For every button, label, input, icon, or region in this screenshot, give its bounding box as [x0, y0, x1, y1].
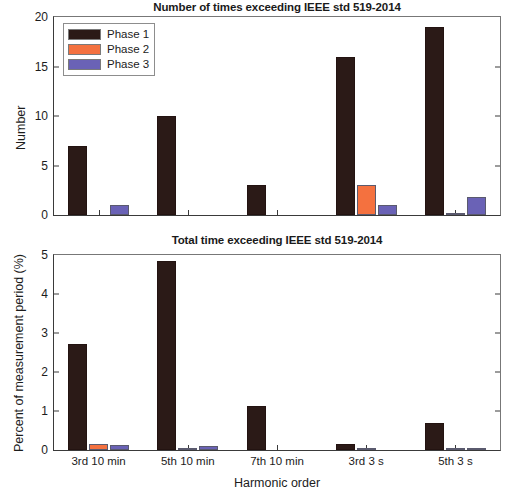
- x-axis-label: Harmonic order: [53, 476, 501, 490]
- legend-swatch-phase-3: [68, 59, 101, 70]
- bar-phase-3: [467, 197, 486, 215]
- plot-area-top: 05101520 Phase 1 Phase 2 Phase 3: [53, 16, 501, 216]
- bar-phase-2: [357, 448, 376, 450]
- y-tick-label: 20: [35, 11, 48, 23]
- bar-phase-1: [336, 57, 355, 215]
- bar-phase-2: [357, 185, 376, 215]
- bar-phase-3: [199, 446, 218, 450]
- bar-phase-3: [110, 205, 129, 215]
- chart-panel-percent: Total time exceeding IEEE std 519-2014 0…: [0, 232, 505, 494]
- x-tick-mark: [277, 210, 278, 215]
- chart-title-bottom: Total time exceeding IEEE std 519-2014: [53, 234, 501, 246]
- x-tick-label: 3rd 3 s: [349, 456, 384, 468]
- legend-swatch-phase-1: [68, 29, 101, 40]
- bar-phase-1: [68, 344, 87, 450]
- bar-phase-3: [467, 448, 486, 450]
- bar-phase-3: [378, 205, 397, 215]
- y-tick-label: 4: [41, 288, 48, 300]
- y-tick-label: 2: [41, 366, 48, 378]
- y-tick-mark: [495, 66, 500, 67]
- x-tick-label: 3rd 10 min: [71, 456, 125, 468]
- y-tick-mark: [54, 294, 59, 295]
- bar-phase-1: [68, 146, 87, 215]
- y-tick-mark: [54, 66, 59, 67]
- y-axis-label-bottom: Percent of measurement period (%): [12, 254, 26, 452]
- bar-phase-1: [157, 261, 176, 450]
- bar-phase-1: [157, 116, 176, 215]
- bar-phase-3: [110, 445, 129, 450]
- legend-item: Phase 3: [68, 57, 149, 72]
- y-tick-label: 10: [35, 110, 48, 122]
- y-tick-label: 3: [41, 327, 48, 339]
- legend-label-phase-3: Phase 3: [107, 59, 149, 71]
- y-tick-mark: [495, 116, 500, 117]
- legend-label-phase-1: Phase 1: [107, 29, 149, 41]
- y-tick-mark: [495, 411, 500, 412]
- y-tick-mark: [54, 372, 59, 373]
- x-tick-label: 5th 3 s: [438, 456, 473, 468]
- legend-item: Phase 1: [68, 27, 149, 42]
- y-tick-label: 0: [41, 209, 48, 221]
- chart-panel-number: Number of times exceeding IEEE std 519-2…: [0, 0, 505, 232]
- y-tick-label: 0: [41, 444, 48, 456]
- bar-phase-1: [336, 444, 355, 450]
- legend-item: Phase 2: [68, 42, 149, 57]
- y-tick-label: 5: [41, 160, 48, 172]
- y-tick-label: 1: [41, 405, 48, 417]
- y-tick-mark: [495, 372, 500, 373]
- plot-area-bottom: 012345 3rd 10 min5th 10 min7th 10 min3rd…: [53, 254, 501, 451]
- y-tick-mark: [54, 165, 59, 166]
- bar-phase-2: [89, 444, 108, 450]
- y-tick-mark: [495, 165, 500, 166]
- x-tick-mark: [277, 445, 278, 450]
- bar-phase-2: [178, 448, 197, 450]
- y-tick-mark: [495, 294, 500, 295]
- y-tick-label: 15: [35, 61, 48, 73]
- figure: Number of times exceeding IEEE std 519-2…: [0, 0, 505, 494]
- y-tick-label: 5: [41, 249, 48, 261]
- y-tick-mark: [54, 411, 59, 412]
- x-tick-mark: [99, 210, 100, 215]
- legend-label-phase-2: Phase 2: [107, 44, 149, 56]
- bar-phase-1: [425, 27, 444, 215]
- bar-phase-1: [425, 423, 444, 450]
- y-tick-mark: [54, 116, 59, 117]
- x-tick-label: 5th 10 min: [161, 456, 215, 468]
- y-axis-label-top: Number: [14, 106, 28, 150]
- chart-title-top: Number of times exceeding IEEE std 519-2…: [53, 1, 501, 13]
- x-tick-label: 7th 10 min: [250, 456, 304, 468]
- bar-phase-2: [446, 448, 465, 450]
- bar-phase-1: [247, 406, 266, 450]
- y-tick-mark: [54, 333, 59, 334]
- bar-phase-1: [247, 185, 266, 215]
- bar-phase-2: [446, 213, 465, 215]
- legend: Phase 1 Phase 2 Phase 3: [63, 23, 155, 76]
- legend-swatch-phase-2: [68, 44, 101, 55]
- x-tick-mark: [188, 210, 189, 215]
- y-tick-mark: [495, 333, 500, 334]
